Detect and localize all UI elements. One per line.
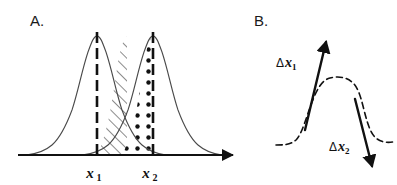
x2-label-subscript: 2 <box>153 172 158 183</box>
panel-b: B. Δx1 Δx2 <box>254 12 393 166</box>
delta-x2-subscript: 2 <box>345 146 350 156</box>
panel-a-label: A. <box>30 12 44 29</box>
x1-label-subscript: 1 <box>97 172 102 183</box>
svg-text:Δx2: Δx2 <box>329 139 350 156</box>
svg-text:Δx1: Δx1 <box>276 55 297 72</box>
scientific-figure: A. x 1 x 2 B. <box>0 0 397 185</box>
x1-axis-label: x 1 <box>85 165 101 183</box>
delta-x1-label: Δx1 <box>276 55 297 72</box>
delta-x2-symbol: Δ <box>329 140 337 154</box>
panel-b-label: B. <box>254 12 268 29</box>
delta-x1-variable: x <box>284 55 292 70</box>
delta-x2-variable: x <box>337 139 345 154</box>
delta-x2-label: Δx2 <box>329 139 350 156</box>
panel-a: A. x 1 x 2 <box>18 12 233 183</box>
x1-label-variable: x <box>85 165 94 181</box>
delta-x1-arrow <box>305 42 326 130</box>
x2-label-variable: x <box>141 165 150 181</box>
delta-x1-symbol: Δ <box>276 56 284 70</box>
delta-x1-subscript: 1 <box>292 62 297 72</box>
x2-axis-label: x 2 <box>141 165 157 183</box>
plateau-curve <box>276 77 393 145</box>
